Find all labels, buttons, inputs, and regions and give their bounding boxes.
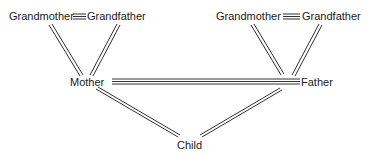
- descent-line-paternal-grandfather-father: [292, 24, 322, 76]
- node-father: Father: [301, 76, 333, 88]
- descent-line-maternal-grandmother-mother: [49, 24, 83, 76]
- node-child: Child: [177, 139, 202, 151]
- descent-line-maternal-grandfather-mother: [90, 24, 120, 76]
- node-paternal-grandmother: Grandmother: [216, 10, 281, 22]
- node-mother: Mother: [70, 76, 104, 88]
- node-maternal-grandmother: Grandmother: [9, 10, 74, 22]
- descent-line-father-child: [200, 88, 282, 137]
- node-maternal-grandfather: Grandfather: [87, 10, 146, 22]
- marriage-line-maternal-grandparents: [73, 14, 86, 19]
- descent-line-paternal-grandmother-father: [251, 24, 284, 75]
- descent-line-mother-child: [96, 87, 180, 137]
- marriage-line-paternal-grandparents: [283, 14, 300, 19]
- marriage-line-parents: [112, 79, 300, 84]
- node-paternal-grandfather: Grandfather: [302, 10, 361, 22]
